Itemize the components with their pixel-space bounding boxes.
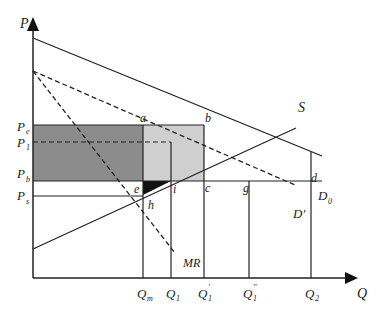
price-label-pe: P e <box>16 119 30 136</box>
svg-text:2: 2 <box>315 294 319 303</box>
dark-shaded-rectangle <box>33 125 143 181</box>
svg-text:D: D <box>317 188 328 203</box>
svg-text:e: e <box>26 127 30 136</box>
point-e-label: e <box>134 182 140 196</box>
point-c-label: c <box>205 181 211 195</box>
svg-text:P: P <box>16 135 25 150</box>
light-shaded-rectangle <box>143 125 204 181</box>
svg-text:Q: Q <box>198 286 208 301</box>
quantity-label-qm: Q m <box>137 286 153 303</box>
svg-text:Q: Q <box>137 286 147 301</box>
point-d-label: d <box>311 171 318 185</box>
svg-text:1: 1 <box>26 143 30 152</box>
x-axis-label: Q <box>357 286 367 301</box>
svg-text:0: 0 <box>328 197 332 206</box>
point-g-label: g <box>243 181 249 195</box>
point-a-label: a <box>140 111 146 125</box>
price-label-p1: P 1 <box>16 135 30 152</box>
svg-text:P: P <box>16 188 25 203</box>
svg-text:b: b <box>26 175 30 184</box>
svg-text:1: 1 <box>208 294 212 303</box>
demand-d0-label: D 0 <box>317 188 332 206</box>
price-label-pb: P b <box>16 166 30 184</box>
svg-text:s: s <box>26 197 29 206</box>
svg-text:1: 1 <box>176 294 180 303</box>
diagram-canvas: P Q P e P 1 P b P s Q m Q 1 Q 1 ' Q 1 ''… <box>0 0 377 315</box>
y-axis-label: P <box>19 16 29 31</box>
quantity-label-q1: Q 1 <box>166 286 180 303</box>
svg-text:Q: Q <box>166 286 176 301</box>
svg-text:1: 1 <box>253 294 257 303</box>
svg-text:P: P <box>16 119 25 134</box>
y-axis-arrow-icon <box>27 17 39 31</box>
svg-text:Q: Q <box>243 286 253 301</box>
quantity-label-q1-double-prime: Q 1 '' <box>243 283 257 303</box>
x-axis-arrow-icon <box>345 272 358 284</box>
svg-text:'': '' <box>253 283 257 292</box>
quantity-label-q2: Q 2 <box>305 286 319 303</box>
demand-prime-label: D' <box>292 206 305 221</box>
mr-label: MR <box>182 256 201 270</box>
point-h-label: h <box>148 198 154 212</box>
point-i-label: i <box>173 182 176 196</box>
svg-text:': ' <box>208 283 210 292</box>
svg-text:Q: Q <box>305 286 315 301</box>
economics-diagram: P Q P e P 1 P b P s Q m Q 1 Q 1 ' Q 1 ''… <box>0 0 377 315</box>
quantity-label-q1-prime: Q 1 ' <box>198 283 212 303</box>
point-b-label: b <box>205 111 211 125</box>
svg-text:m: m <box>147 294 153 303</box>
svg-text:P: P <box>16 166 25 181</box>
supply-label: S <box>298 100 305 115</box>
price-label-ps: P s <box>16 188 29 206</box>
